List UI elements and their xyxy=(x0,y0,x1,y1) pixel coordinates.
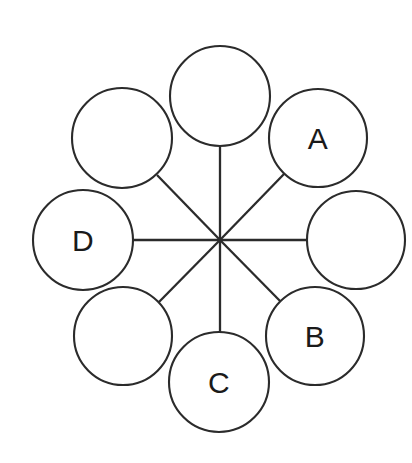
node-right[interactable] xyxy=(307,191,405,289)
node-upper-left-circle[interactable] xyxy=(72,88,172,188)
spoke-to-node-b xyxy=(220,240,282,303)
node-right-circle[interactable] xyxy=(307,191,405,289)
node-c[interactable]: C xyxy=(169,332,269,432)
spoke-to-lower-left-node xyxy=(158,240,220,303)
node-lower-left-circle[interactable] xyxy=(74,287,172,385)
node-lower-left[interactable] xyxy=(74,287,172,385)
spoke-to-node-a xyxy=(220,173,285,240)
spoke-to-upper-left-node xyxy=(157,175,220,240)
node-b[interactable]: B xyxy=(266,287,364,385)
node-d-label: D xyxy=(72,224,94,257)
node-c-label: C xyxy=(208,366,230,399)
node-b-label: B xyxy=(305,320,326,353)
diagram-canvas: A B C D xyxy=(0,0,412,463)
node-upper-left[interactable] xyxy=(72,88,172,188)
node-top-circle[interactable] xyxy=(170,46,270,146)
node-a[interactable]: A xyxy=(269,89,367,187)
radial-diagram: A B C D xyxy=(0,0,412,463)
node-a-label: A xyxy=(308,122,329,155)
node-top[interactable] xyxy=(170,46,270,146)
node-d[interactable]: D xyxy=(33,190,133,290)
